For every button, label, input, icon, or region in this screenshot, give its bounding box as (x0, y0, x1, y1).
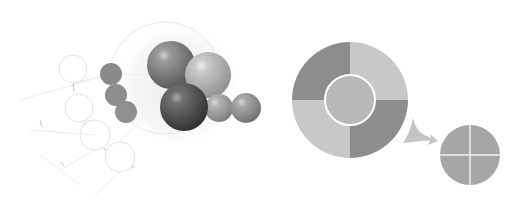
donut-center (325, 75, 375, 125)
illustration-svg (0, 0, 525, 205)
large-spheres (147, 41, 261, 131)
donut-chart (292, 42, 408, 158)
sphere-darkest (160, 83, 208, 131)
arrow-icon (403, 118, 438, 145)
small-sphere (100, 63, 122, 85)
sphere-medium-gray-right (231, 93, 261, 123)
sphere-medium-gray (205, 94, 233, 122)
illustration-canvas (0, 0, 525, 205)
small-sphere (115, 101, 137, 123)
pie-chart (440, 125, 500, 185)
